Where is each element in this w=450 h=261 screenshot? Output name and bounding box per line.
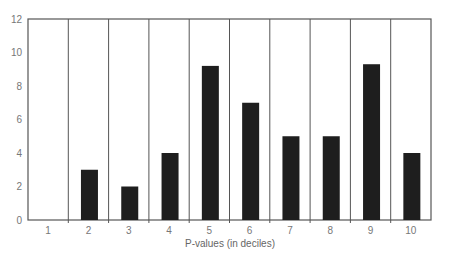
x-tick-label: 4 [166, 225, 172, 236]
y-tick-label: 2 [16, 181, 22, 192]
x-axis-ticks: 12345678910 [45, 225, 416, 236]
y-tick-label: 6 [16, 114, 22, 125]
bars [81, 64, 420, 220]
bar-5 [202, 66, 219, 220]
x-tick-label: 7 [287, 225, 293, 236]
y-tick-label: 0 [16, 215, 22, 226]
bar-6 [242, 103, 259, 220]
bar-chart: 024681012 12345678910 P-values (in decil… [0, 0, 450, 261]
x-tick-label: 9 [368, 225, 374, 236]
bar-7 [282, 136, 299, 220]
y-tick-label: 12 [11, 14, 23, 25]
bar-9 [363, 64, 380, 220]
x-tick-label: 1 [45, 225, 51, 236]
category-separators [68, 19, 390, 223]
x-tick-label: 8 [327, 225, 333, 236]
x-tick-label: 10 [405, 225, 417, 236]
y-tick-label: 8 [16, 81, 22, 92]
bar-8 [323, 136, 340, 220]
x-axis-label: P-values (in deciles) [185, 238, 275, 249]
bar-10 [403, 153, 420, 220]
x-tick-label: 6 [247, 225, 253, 236]
bar-3 [121, 187, 138, 221]
x-tick-label: 5 [207, 225, 213, 236]
bar-4 [162, 153, 179, 220]
x-tick-label: 3 [126, 225, 132, 236]
y-axis-ticks: 024681012 [11, 14, 23, 226]
x-tick-label: 2 [86, 225, 92, 236]
bar-2 [81, 170, 98, 220]
y-tick-label: 10 [11, 47, 23, 58]
y-tick-label: 4 [16, 148, 22, 159]
